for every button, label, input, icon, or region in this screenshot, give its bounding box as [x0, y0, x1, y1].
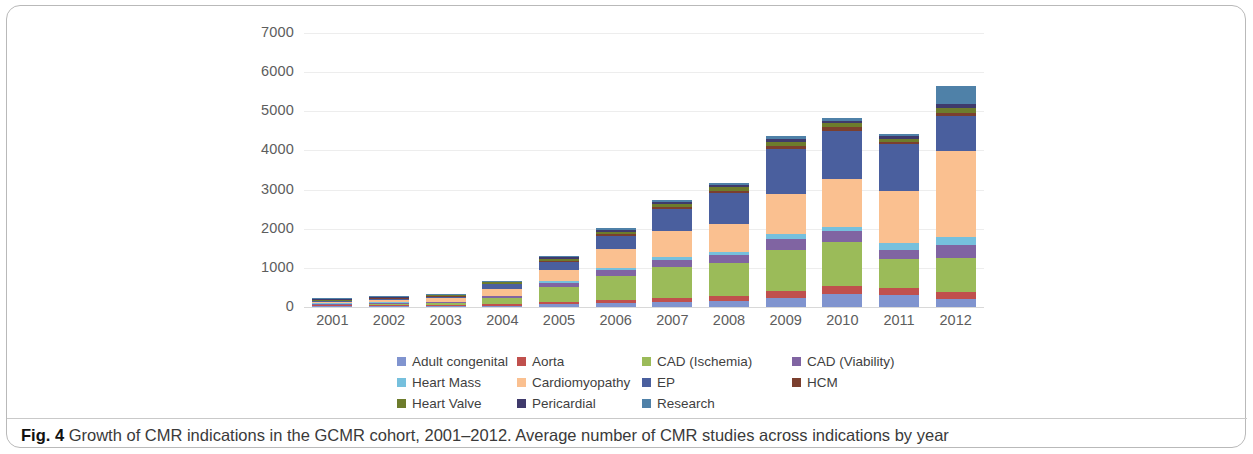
caption-label: Fig. 4: [21, 426, 64, 444]
legend-item-label: Heart Mass: [412, 375, 481, 390]
legend-item[interactable]: CAD (Viability): [792, 351, 895, 371]
y-axis-tick-label: 5000: [234, 102, 294, 118]
legend-item-label: CAD (Ischemia): [657, 354, 752, 369]
y-axis-tick-label: 4000: [234, 141, 294, 157]
legend-swatch-icon: [517, 357, 526, 366]
legend-swatch-icon: [517, 378, 526, 387]
legend-item[interactable]: Aorta: [517, 351, 564, 371]
x-axis-tick-label: 2010: [814, 312, 870, 328]
chart-area: 01000200030004000500060007000 2001200220…: [7, 6, 1247, 341]
legend-item[interactable]: EP: [642, 372, 675, 392]
legend-swatch-icon: [792, 378, 801, 387]
x-axis-tick-label: 2007: [644, 312, 700, 328]
legend-swatch-icon: [517, 399, 526, 408]
figure-caption: Fig. 4 Growth of CMR indications in the …: [21, 425, 1231, 446]
legend-row: Adult congenitalAortaCAD (Ischemia)CAD (…: [397, 351, 957, 371]
x-axis-tick-label: 2011: [871, 312, 927, 328]
x-axis-tick-label: 2008: [701, 312, 757, 328]
legend-item-label: Research: [657, 396, 715, 411]
legend-row: Heart MassCardiomyopathyEPHCM: [397, 372, 957, 392]
x-axis: 2001200220032004200520062007200820092010…: [304, 6, 984, 341]
x-axis-tick-label: 2005: [531, 312, 587, 328]
legend-item[interactable]: HCM: [792, 372, 838, 392]
legend-swatch-icon: [792, 357, 801, 366]
legend-row: Heart ValvePericardialResearch: [397, 393, 957, 413]
chart-legend: Adult congenitalAortaCAD (Ischemia)CAD (…: [397, 351, 957, 413]
legend-item-label: Cardiomyopathy: [532, 375, 630, 390]
x-axis-tick-label: 2004: [474, 312, 530, 328]
legend-swatch-icon: [642, 378, 651, 387]
y-axis: 01000200030004000500060007000: [232, 33, 294, 307]
y-axis-tick-label: 0: [234, 298, 294, 314]
legend-swatch-icon: [397, 378, 406, 387]
legend-item-label: EP: [657, 375, 675, 390]
legend-swatch-icon: [642, 399, 651, 408]
x-axis-tick-label: 2006: [588, 312, 644, 328]
legend-item[interactable]: Research: [642, 393, 715, 413]
legend-item[interactable]: Heart Valve: [397, 393, 482, 413]
legend-item-label: HCM: [807, 375, 838, 390]
y-axis-tick-label: 3000: [234, 181, 294, 197]
legend-item-label: Aorta: [532, 354, 564, 369]
x-axis-tick-label: 2001: [304, 312, 360, 328]
legend-swatch-icon: [397, 399, 406, 408]
x-axis-tick-label: 2012: [928, 312, 984, 328]
caption-text: Growth of CMR indications in the GCMR co…: [69, 426, 949, 444]
legend-item[interactable]: Heart Mass: [397, 372, 481, 392]
y-axis-tick-label: 7000: [234, 24, 294, 40]
legend-item-label: Adult congenital: [412, 354, 508, 369]
x-axis-tick-label: 2009: [758, 312, 814, 328]
legend-item[interactable]: Adult congenital: [397, 351, 508, 371]
figure-panel: 01000200030004000500060007000 2001200220…: [6, 5, 1246, 448]
y-axis-tick-label: 6000: [234, 63, 294, 79]
x-axis-tick-label: 2003: [418, 312, 474, 328]
legend-item[interactable]: CAD (Ischemia): [642, 351, 752, 371]
legend-item[interactable]: Cardiomyopathy: [517, 372, 630, 392]
legend-item-label: CAD (Viability): [807, 354, 895, 369]
y-axis-tick-label: 2000: [234, 220, 294, 236]
legend-swatch-icon: [397, 357, 406, 366]
legend-item-label: Heart Valve: [412, 396, 482, 411]
legend-swatch-icon: [642, 357, 651, 366]
legend-item-label: Pericardial: [532, 396, 596, 411]
caption-divider: [7, 418, 1247, 419]
x-axis-tick-label: 2002: [361, 312, 417, 328]
legend-item[interactable]: Pericardial: [517, 393, 596, 413]
y-axis-tick-label: 1000: [234, 259, 294, 275]
